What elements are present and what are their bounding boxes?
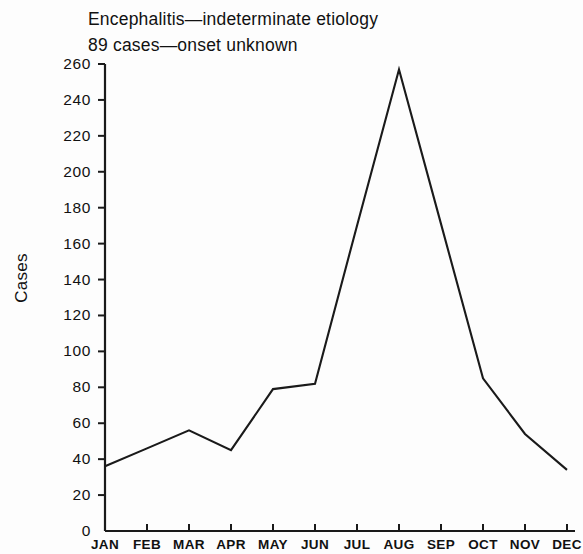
x-tick-label-feb: FEB xyxy=(124,538,170,552)
data-line-encephalitis xyxy=(105,69,567,470)
x-tick-label-dec: DEC xyxy=(544,538,583,552)
x-tick-label-aug: AUG xyxy=(376,538,422,552)
y-tick-label: 120 xyxy=(37,308,91,322)
x-tick-label-mar: MAR xyxy=(166,538,212,552)
y-tick-label: 200 xyxy=(37,165,91,179)
chart-title-block: Encephalitis—indeterminate etiology 89 c… xyxy=(88,6,378,58)
x-tick-label-jul: JUL xyxy=(334,538,380,552)
data-series-group xyxy=(105,69,567,470)
y-axis-title: Cases xyxy=(12,243,32,313)
x-tick-label-oct: OCT xyxy=(460,538,506,552)
y-tick-label: 60 xyxy=(37,416,91,430)
y-tick-label: 140 xyxy=(37,273,91,287)
y-tick-label: 180 xyxy=(37,201,91,215)
y-tick-label: 20 xyxy=(37,488,91,502)
chart-figure: Encephalitis—indeterminate etiology 89 c… xyxy=(0,0,583,554)
x-tick-label-sep: SEP xyxy=(418,538,464,552)
x-tick-label-jun: JUN xyxy=(292,538,338,552)
chart-subtitle: 89 cases—onset unknown xyxy=(88,32,378,58)
y-tick-label: 260 xyxy=(37,57,91,71)
y-tick-label: 0 xyxy=(37,524,91,538)
y-tick-label: 100 xyxy=(37,344,91,358)
y-tick-label: 160 xyxy=(37,237,91,251)
y-tick-label: 220 xyxy=(37,129,91,143)
y-tick-label: 240 xyxy=(37,93,91,107)
axes-group xyxy=(105,64,575,531)
x-tick-label-may: MAY xyxy=(250,538,296,552)
x-tick-label-apr: APR xyxy=(208,538,254,552)
x-tick-label-nov: NOV xyxy=(502,538,548,552)
y-tick-label: 80 xyxy=(37,380,91,394)
page-title: Encephalitis—indeterminate etiology xyxy=(88,6,378,32)
y-tick-label: 40 xyxy=(37,452,91,466)
x-tick-label-jan: JAN xyxy=(82,538,128,552)
